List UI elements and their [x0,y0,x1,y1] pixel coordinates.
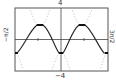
y-max-label: 4 [58,0,62,7]
y-min-label: −4 [55,73,65,80]
x-max-label: 3π/2 [109,30,115,42]
function-plot [0,0,116,82]
x-min-label: −π/2 [3,30,9,42]
